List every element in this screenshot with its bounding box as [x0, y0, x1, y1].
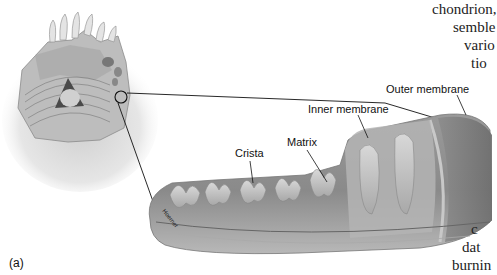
label-crista: Crista — [235, 148, 264, 159]
body-text-line: burnin — [452, 258, 491, 273]
label-inner-membrane: Inner membrane — [308, 104, 389, 115]
body-text-line: dat — [462, 240, 480, 255]
outer-membrane-leader — [457, 95, 466, 115]
panel-label: (a) — [9, 257, 24, 269]
body-text-line: vario — [464, 38, 495, 53]
body-text-line: c — [471, 222, 478, 237]
body-text-line: tio — [471, 56, 487, 71]
connector-line-top — [127, 93, 435, 118]
nucleolus — [60, 89, 80, 107]
body-text-line: semble — [453, 20, 496, 35]
label-matrix: Matrix — [287, 137, 317, 148]
body-text-line: chondrion, — [432, 2, 497, 17]
label-outer-membrane: Outer membrane — [386, 84, 469, 95]
